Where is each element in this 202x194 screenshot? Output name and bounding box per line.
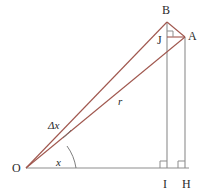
vertex-label-H: H (182, 178, 191, 190)
vertex-label-J: J (157, 34, 162, 46)
angle-arc-delta-x (63, 130, 71, 138)
ray-segment-OB (26, 22, 167, 168)
right-angle-icon-at-J (167, 31, 173, 37)
vertex-label-A: A (188, 30, 197, 42)
measure-label-r: r (118, 96, 122, 107)
figure-canvas (0, 0, 202, 194)
vertex-label-B: B (162, 4, 170, 16)
right-angle-icon-at-H (178, 161, 185, 168)
structure-lines (26, 22, 189, 168)
vertex-label-O: O (12, 162, 21, 174)
measure-label-delta-x: Δx (48, 120, 59, 131)
right-angle-markers (160, 31, 185, 168)
ray-segment-OA (26, 37, 185, 168)
ray-segment-BA (167, 22, 185, 37)
vertex-label-I: I (163, 178, 167, 190)
right-angle-icon-at-I (160, 161, 167, 168)
measure-label-x: x (56, 157, 61, 168)
geometry-figure: B A J O I H r Δx x (0, 0, 202, 194)
angle-arc-x (67, 146, 76, 168)
